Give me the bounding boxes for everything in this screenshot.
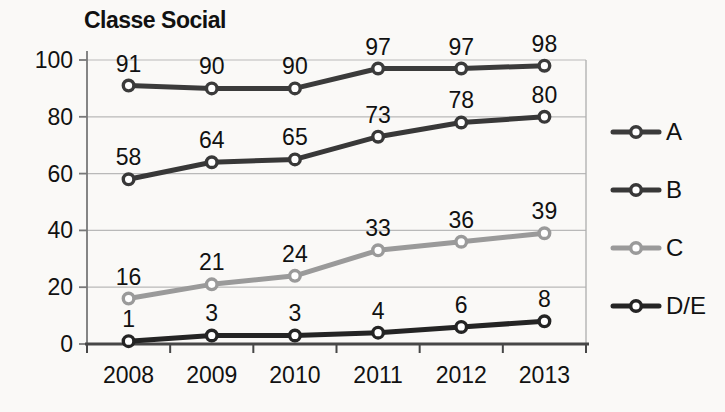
series-marker-d-e-2009 <box>206 330 217 341</box>
data-label-b-2008: 58 <box>116 144 142 170</box>
series-marker-b-2011 <box>373 131 384 142</box>
data-label-a-2009: 90 <box>199 53 225 79</box>
series-marker-c-2010 <box>290 271 301 282</box>
y-tick-label-60: 60 <box>47 161 73 187</box>
legend-swatch-marker-d-e <box>631 301 642 312</box>
y-tick-label-100: 100 <box>35 47 73 73</box>
legend-label-d-e: D/E <box>666 297 706 315</box>
series-marker-a-2009 <box>206 83 217 94</box>
series-marker-b-2008 <box>123 174 134 185</box>
series-marker-a-2013 <box>539 60 550 71</box>
y-tick-label-20: 20 <box>47 274 73 300</box>
data-label-b-2013: 80 <box>532 82 558 108</box>
series-marker-d-e-2010 <box>290 330 301 341</box>
series-marker-b-2013 <box>539 112 550 123</box>
data-label-b-2011: 73 <box>365 102 391 128</box>
chart-legend: ABCD/E <box>610 123 706 315</box>
legend-marker-icon-d-e <box>610 297 662 315</box>
data-label-b-2010: 65 <box>282 124 308 150</box>
data-label-d-e-2013: 8 <box>538 286 551 312</box>
data-label-c-2010: 24 <box>282 241 308 267</box>
legend-label-a: A <box>666 123 682 141</box>
data-label-c-2008: 16 <box>116 264 142 290</box>
legend-swatch-marker-a <box>631 127 642 138</box>
y-tick-label-80: 80 <box>47 104 73 130</box>
legend-marker-icon-a <box>610 123 662 141</box>
x-tick-label-2009: 2009 <box>186 362 237 388</box>
series-marker-a-2010 <box>290 83 301 94</box>
x-tick-label-2011: 2011 <box>353 362 402 388</box>
legend-item-c: C <box>610 239 706 257</box>
series-marker-b-2009 <box>206 157 217 168</box>
legend-marker-icon-c <box>610 239 662 257</box>
y-tick-label-0: 0 <box>60 331 73 357</box>
data-label-d-e-2009: 3 <box>205 300 218 326</box>
series-line-a <box>129 66 545 89</box>
legend-marker-icon-b <box>610 181 662 199</box>
series-marker-a-2011 <box>373 63 384 74</box>
data-label-a-2008: 91 <box>116 51 142 77</box>
series-marker-c-2012 <box>456 236 467 247</box>
data-label-a-2013: 98 <box>532 31 558 57</box>
series-marker-c-2011 <box>373 245 384 256</box>
series-line-c <box>129 233 545 298</box>
x-tick-label-2013: 2013 <box>519 362 570 388</box>
data-label-d-e-2008: 1 <box>122 306 135 332</box>
data-label-d-e-2012: 6 <box>455 292 468 318</box>
series-marker-d-e-2011 <box>373 327 384 338</box>
data-label-a-2011: 97 <box>365 34 391 60</box>
x-tick-label-2010: 2010 <box>269 362 320 388</box>
chart-figure: Classe Social 02040608010020082009201020… <box>0 0 725 412</box>
series-marker-a-2012 <box>456 63 467 74</box>
series-line-d-e <box>129 321 545 341</box>
legend-label-c: C <box>666 239 683 257</box>
x-tick-label-2012: 2012 <box>436 362 487 388</box>
data-label-c-2012: 36 <box>448 207 474 233</box>
legend-swatch-marker-c <box>631 243 642 254</box>
data-label-a-2012: 97 <box>448 34 474 60</box>
series-marker-d-e-2012 <box>456 322 467 333</box>
data-label-a-2010: 90 <box>282 53 308 79</box>
series-marker-a-2008 <box>123 80 134 91</box>
series-marker-d-e-2008 <box>123 336 134 347</box>
legend-item-a: A <box>610 123 706 141</box>
series-line-b <box>129 117 545 179</box>
data-label-d-e-2011: 4 <box>372 298 385 324</box>
series-marker-b-2012 <box>456 117 467 128</box>
series-marker-b-2010 <box>290 154 301 165</box>
legend-item-d-e: D/E <box>610 297 706 315</box>
series-marker-d-e-2013 <box>539 316 550 327</box>
series-marker-c-2009 <box>206 279 217 290</box>
data-label-c-2009: 21 <box>199 249 225 275</box>
x-tick-label-2008: 2008 <box>103 362 154 388</box>
data-label-c-2011: 33 <box>365 215 391 241</box>
legend-item-b: B <box>610 181 706 199</box>
series-marker-c-2008 <box>123 293 134 304</box>
legend-label-b: B <box>666 181 682 199</box>
data-label-d-e-2010: 3 <box>289 300 302 326</box>
data-label-b-2012: 78 <box>448 87 474 113</box>
series-marker-c-2013 <box>539 228 550 239</box>
data-label-b-2009: 64 <box>199 127 225 153</box>
y-tick-label-40: 40 <box>47 217 73 243</box>
legend-swatch-marker-b <box>631 185 642 196</box>
data-label-c-2013: 39 <box>532 198 558 224</box>
